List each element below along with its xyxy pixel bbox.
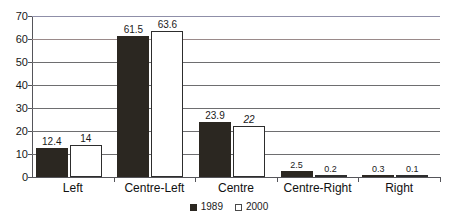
y-tick-mark-0 — [28, 177, 32, 178]
grouped-bar-chart: 01020304050607012.41461.563.623.9222.50.… — [0, 0, 458, 224]
bar-2000-centre-left: 63.6 — [151, 31, 183, 177]
bar-value-label: 2.5 — [290, 160, 303, 170]
plot-area: 01020304050607012.41461.563.623.9222.50.… — [32, 16, 440, 177]
x-tick-label-centre-right: Centre-Right — [284, 181, 352, 195]
legend-item-2000: 2000 — [235, 202, 268, 212]
bar-group: 0.30.1 — [358, 16, 440, 177]
y-tick-label-10: 10 — [16, 149, 28, 160]
y-tick-label-60: 60 — [16, 34, 28, 45]
bar-value-label: 14 — [80, 134, 91, 144]
legend-label-2000: 2000 — [246, 202, 268, 212]
x-axis-tick — [440, 177, 441, 182]
bar-2000-left: 14 — [70, 145, 102, 177]
bar-2000-right: 0.1 — [396, 175, 428, 177]
bar-value-label: 63.6 — [158, 20, 177, 30]
bar-value-label: 0.3 — [372, 164, 385, 174]
x-tick-label-centre-left: Centre-Left — [124, 181, 184, 195]
bar-2000-centre-right: 0.2 — [315, 175, 347, 177]
x-tick-label-left: Left — [63, 181, 83, 195]
bar-value-label: 22 — [243, 115, 254, 125]
bar-value-label: 12.4 — [42, 137, 61, 147]
y-tick-label-30: 30 — [16, 103, 28, 114]
bar-1989-left: 12.4 — [36, 148, 68, 177]
y-tick-label-50: 50 — [16, 57, 28, 68]
bar-1989-centre-left: 61.5 — [117, 36, 149, 177]
bar-value-label: 0.2 — [324, 164, 337, 174]
y-tick-label-20: 20 — [16, 126, 28, 137]
x-axis-tick — [114, 177, 115, 182]
bar-group: 2.50.2 — [277, 16, 359, 177]
x-tick-label-centre: Centre — [218, 181, 254, 195]
bar-group: 12.414 — [32, 16, 114, 177]
hollow-square-icon — [235, 204, 242, 211]
bar-value-label: 61.5 — [124, 25, 143, 35]
bar-group: 61.563.6 — [114, 16, 196, 177]
legend-item-1989: 1989 — [190, 202, 223, 212]
filled-square-icon — [190, 204, 197, 211]
bar-1989-centre: 23.9 — [199, 122, 231, 177]
x-tick-label-right: Right — [385, 181, 413, 195]
bar-value-label: 23.9 — [205, 111, 224, 121]
y-tick-label-40: 40 — [16, 80, 28, 91]
bar-1989-centre-right: 2.5 — [281, 171, 313, 177]
bar-2000-centre: 22 — [233, 126, 265, 177]
x-axis-tick — [195, 177, 196, 182]
chart-legend: 1989 2000 — [0, 202, 458, 212]
legend-label-1989: 1989 — [201, 202, 223, 212]
bar-value-label: 0.1 — [406, 164, 419, 174]
y-tick-label-70: 70 — [16, 11, 28, 22]
bar-1989-right: 0.3 — [362, 175, 394, 177]
x-axis-line — [32, 177, 440, 178]
x-axis-tick — [358, 177, 359, 182]
x-axis-tick — [277, 177, 278, 182]
bar-group: 23.922 — [195, 16, 277, 177]
